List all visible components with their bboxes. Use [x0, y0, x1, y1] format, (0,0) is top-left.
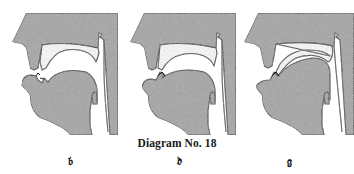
- panel-label-b: 𝔟: [60, 155, 80, 168]
- panel-label-g: 𝔤: [279, 155, 299, 168]
- epiglottis: [92, 92, 97, 104]
- mouth-cross-section-d: [118, 0, 236, 135]
- epiglottis: [210, 92, 215, 104]
- panel-label-d: 𝔡: [169, 155, 189, 168]
- oral-cavity: [158, 44, 217, 70]
- diagram-panel-b: [0, 0, 118, 135]
- mouth-cross-section-g: [236, 0, 354, 135]
- diagram-panel-g: [236, 0, 354, 135]
- mouth-cross-section-b: [0, 0, 118, 135]
- epiglottis: [324, 92, 329, 104]
- diagram-caption: Diagram No. 18: [0, 137, 354, 149]
- diagram-panel-d: [118, 0, 236, 135]
- oral-cavity: [40, 44, 99, 70]
